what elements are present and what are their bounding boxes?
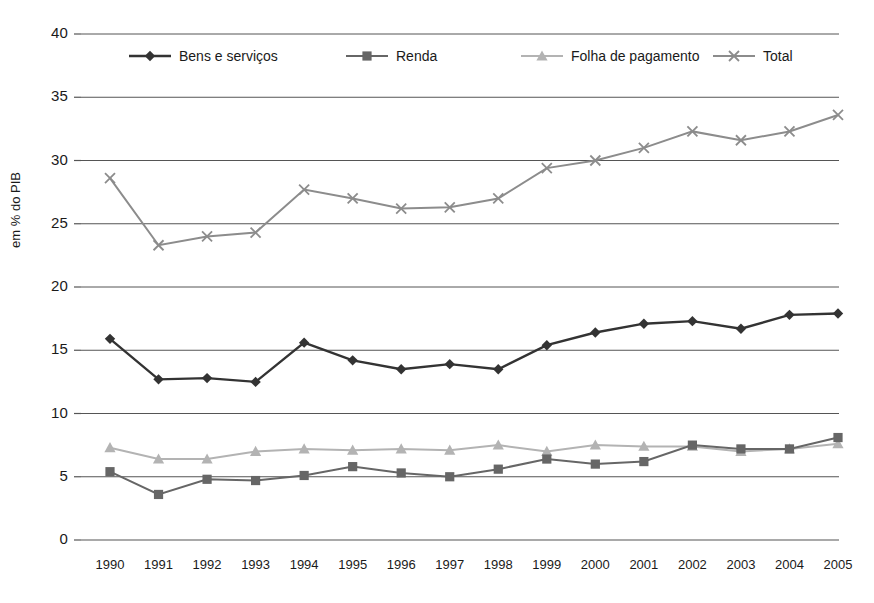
legend-label: Total xyxy=(763,48,793,64)
data-point-cross-marker xyxy=(105,173,115,183)
y-axis-tick-label: 10 xyxy=(18,404,68,421)
y-axis-tick-label: 25 xyxy=(18,214,68,231)
data-point-triangle-marker xyxy=(104,442,115,452)
data-point-square-marker xyxy=(591,460,600,469)
y-axis-tick-label: 5 xyxy=(18,467,68,484)
data-point-diamond-marker xyxy=(784,310,794,320)
y-axis-tick-label: 15 xyxy=(18,340,68,357)
series-bens-e-servi-os xyxy=(105,308,843,387)
gridlines xyxy=(74,34,839,540)
data-point-diamond-marker xyxy=(202,373,212,383)
x-axis-tick-label: 2005 xyxy=(808,557,868,572)
data-point-square-marker xyxy=(362,51,371,60)
data-point-square-marker xyxy=(494,465,503,474)
data-point-square-marker xyxy=(639,457,648,466)
data-point-diamond-marker xyxy=(687,316,697,326)
data-point-diamond-marker xyxy=(542,340,552,350)
data-point-square-marker xyxy=(397,468,406,477)
legend-item-bens-e-servi-os[interactable]: Bens e serviços xyxy=(128,48,278,64)
legend-swatch-triangle-icon xyxy=(520,48,564,64)
legend-swatch-diamond-icon xyxy=(128,48,172,64)
legend-item-folha-de-pagamento[interactable]: Folha de pagamento xyxy=(520,48,699,64)
data-point-diamond-marker xyxy=(493,364,503,374)
data-point-square-marker xyxy=(202,475,211,484)
legend-item-total[interactable]: Total xyxy=(712,48,793,64)
legend-label: Folha de pagamento xyxy=(571,48,699,64)
series-line xyxy=(110,314,838,382)
data-point-square-marker xyxy=(154,490,163,499)
data-point-square-marker xyxy=(542,454,551,463)
data-point-square-marker xyxy=(348,462,357,471)
series-line xyxy=(110,438,838,495)
data-point-cross-marker xyxy=(833,110,843,120)
series-line xyxy=(110,444,838,459)
data-point-square-marker xyxy=(251,476,260,485)
data-point-diamond-marker xyxy=(639,318,649,328)
series-total xyxy=(105,110,843,250)
data-point-square-marker xyxy=(300,471,309,480)
legend-label: Bens e serviços xyxy=(179,48,278,64)
y-axis-tick-label: 35 xyxy=(18,87,68,104)
data-point-diamond-marker xyxy=(396,364,406,374)
y-axis-title: em % do PIB xyxy=(8,140,23,280)
data-point-diamond-marker xyxy=(833,308,843,318)
legend-swatch-square-icon xyxy=(345,48,389,64)
data-point-diamond-marker xyxy=(590,327,600,337)
data-point-square-marker xyxy=(445,472,454,481)
data-point-square-marker xyxy=(688,441,697,450)
series-line xyxy=(110,115,838,245)
legend-item-renda[interactable]: Renda xyxy=(345,48,437,64)
data-point-square-marker xyxy=(105,467,114,476)
series-layer xyxy=(104,110,843,499)
legend-label: Renda xyxy=(396,48,437,64)
y-axis-tick-label: 40 xyxy=(18,24,68,41)
chart-plot-area xyxy=(0,0,874,603)
legend-swatch-cross-icon xyxy=(712,48,756,64)
y-axis-tick-label: 0 xyxy=(18,530,68,547)
data-point-diamond-marker xyxy=(736,324,746,334)
data-point-square-marker xyxy=(736,444,745,453)
data-point-square-marker xyxy=(785,444,794,453)
chart-container: 0510152025303540 19901991199219931994199… xyxy=(0,0,874,603)
series-folha-de-pagamento xyxy=(104,438,843,463)
data-point-square-marker xyxy=(833,433,842,442)
y-axis-tick-label: 30 xyxy=(18,151,68,168)
data-point-diamond-marker xyxy=(445,359,455,369)
series-renda xyxy=(105,433,842,499)
data-point-diamond-marker xyxy=(145,51,155,61)
data-point-diamond-marker xyxy=(347,355,357,365)
y-axis-tick-label: 20 xyxy=(18,277,68,294)
